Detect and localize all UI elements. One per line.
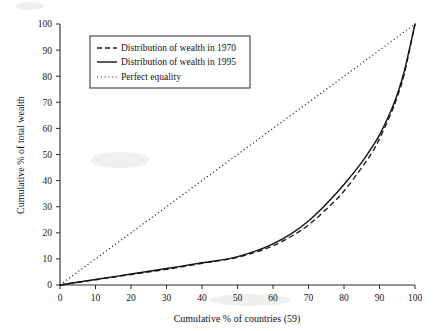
- y-tick-label: 0: [47, 280, 52, 290]
- y-tick-label: 100: [38, 19, 53, 29]
- y-tick-label: 70: [43, 98, 53, 108]
- x-axis-tick-labels: 0102030405060708090100: [58, 293, 423, 303]
- y-axis-tick-labels: 0102030405060708090100: [38, 19, 53, 290]
- x-tick-label: 90: [375, 293, 385, 303]
- y-tick-label: 20: [43, 228, 53, 238]
- x-tick-label: 70: [304, 293, 314, 303]
- y-tick-label: 40: [43, 176, 53, 186]
- legend-label-equality: Perfect equality: [121, 72, 181, 82]
- y-tick-label: 30: [43, 202, 53, 212]
- x-tick-label: 100: [408, 293, 423, 303]
- x-tick-label: 80: [339, 293, 349, 303]
- y-tick-group: [56, 24, 60, 285]
- legend-label-1995: Distribution of wealth in 1995: [121, 57, 236, 67]
- y-axis: [56, 24, 60, 285]
- x-tick-label: 60: [268, 293, 278, 303]
- x-tick-label: 40: [197, 293, 207, 303]
- x-tick-label: 30: [162, 293, 172, 303]
- y-axis-title: Cumulative % of total wealth: [15, 96, 26, 214]
- scan-artifact: [90, 152, 150, 168]
- x-tick-label: 0: [58, 293, 63, 303]
- y-tick-label: 60: [43, 124, 53, 134]
- y-tick-label: 50: [43, 150, 53, 160]
- x-tick-label: 20: [126, 293, 136, 303]
- lorenz-curve-chart: 0102030405060708090100 01020304050607080…: [0, 0, 436, 331]
- x-tick-label: 50: [233, 293, 243, 303]
- legend-label-1970: Distribution of wealth in 1970: [121, 43, 236, 53]
- x-axis-title: Cumulative % of countries (59): [174, 313, 301, 325]
- y-tick-label: 80: [43, 72, 53, 82]
- legend: Distribution of wealth in 1970 Distribut…: [90, 36, 250, 88]
- y-tick-label: 10: [43, 254, 53, 264]
- x-tick-group: [60, 285, 415, 289]
- x-tick-label: 10: [91, 293, 101, 303]
- y-tick-label: 90: [43, 46, 53, 56]
- scan-artifact: [16, 2, 44, 10]
- scan-artifact: [210, 294, 290, 306]
- x-axis: [60, 285, 415, 289]
